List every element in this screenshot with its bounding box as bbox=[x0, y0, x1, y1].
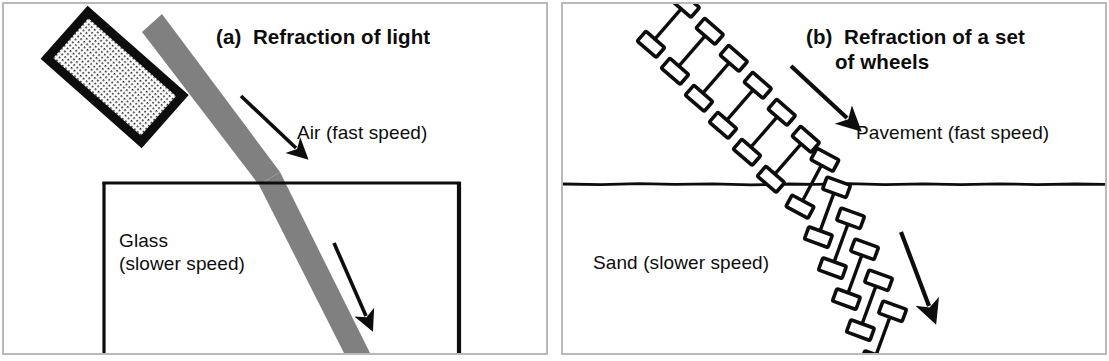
label-air: Air (fast speed) bbox=[297, 121, 427, 144]
refraction-figure: (a) Refraction of light Air (fast speed)… bbox=[0, 0, 1109, 361]
wheel-set bbox=[661, 18, 723, 84]
panel-b-title-line2: of wheels bbox=[835, 50, 929, 73]
label-glass: Glass(slower speed) bbox=[119, 229, 245, 275]
label-glass-line2: (slower speed) bbox=[119, 253, 245, 274]
label-sand: Sand (slower speed) bbox=[593, 251, 769, 274]
panel-refraction-of-wheels: (b) Refraction of a set of wheels Paveme… bbox=[561, 2, 1107, 355]
wheel-set bbox=[709, 72, 771, 138]
panel-b-title: (b) Refraction of a set of wheels bbox=[806, 24, 1025, 74]
label-glass-line1: Glass bbox=[119, 230, 168, 251]
wheel-sets-sand bbox=[804, 177, 906, 353]
wheel-set bbox=[733, 99, 795, 165]
panel-refraction-of-light: (a) Refraction of light Air (fast speed)… bbox=[2, 2, 548, 355]
refracted-direction-arrow bbox=[901, 232, 929, 306]
wheel-set bbox=[637, 4, 699, 57]
panel-a-artwork bbox=[4, 4, 546, 353]
panel-b-title-line1: (b) Refraction of a set bbox=[806, 25, 1025, 48]
panel-a-title: (a) Refraction of light bbox=[216, 24, 430, 49]
wheel-set bbox=[685, 45, 747, 111]
label-pavement: Pavement (fast speed) bbox=[856, 121, 1049, 144]
